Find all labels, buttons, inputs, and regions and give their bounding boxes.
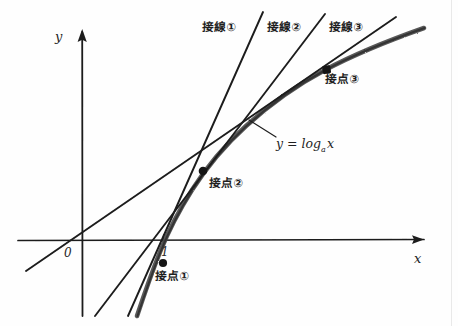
tangent-line-2-label: 接線② — [267, 22, 303, 34]
tangent-point-2-dot — [199, 167, 208, 176]
origin-label: 0 — [64, 247, 72, 259]
x-axis-label: x — [414, 252, 421, 265]
x-tick-label-1: 1 — [161, 246, 169, 258]
tangent-line-1-label: 接線① — [202, 22, 238, 34]
tangent-point-2-label: 接点② — [209, 178, 245, 190]
y-axis-label: y — [55, 30, 62, 43]
diagram-svg — [0, 0, 458, 326]
y-axis — [78, 29, 87, 316]
tangent-point-3-label: 接点③ — [325, 74, 361, 86]
curve-equation-label: y = loga x — [276, 138, 334, 154]
x-axis — [18, 235, 424, 244]
figure-canvas: y x 0 1 接線① 接線② 接線③ 接点① 接点② 接点③ y = loga… — [0, 0, 458, 326]
curve-equation-base: a — [321, 145, 326, 154]
curve-equation-main: y = log — [276, 136, 321, 151]
tangent-line-2-stroke — [95, 14, 325, 316]
scan-edge-line — [451, 0, 452, 326]
curve-equation-var: x — [327, 136, 334, 151]
tangent-point-1-dot — [159, 259, 167, 267]
tangent-point-1-label: 接点① — [155, 271, 191, 283]
tangent-line-1-stroke — [128, 12, 263, 316]
curve-label-leader — [249, 120, 276, 137]
tangent-line-3-label: 接線③ — [329, 22, 365, 34]
